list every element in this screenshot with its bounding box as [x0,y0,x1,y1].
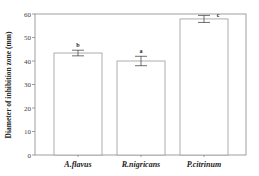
y-tick-label: 30 [24,81,32,89]
y-tick-label: 60 [24,11,32,19]
x-tick-label: P.citrinum [187,160,221,169]
x-tick-label: R.nigricans [121,160,160,169]
significance-letter: b [76,42,80,48]
bar-chart: 0102030405060 bac A.flavusR.nigricansP.c… [0,0,259,176]
significance-letter: c [217,12,220,18]
y-tick-label: 50 [24,34,32,42]
x-tick-label: A.flavus [63,160,91,169]
bar-a-flavus [54,53,102,155]
y-tick-label: 40 [24,58,32,66]
y-tick-label: 20 [24,105,32,113]
bar-r-nigricans [117,61,165,155]
y-tick-label: 0 [28,152,32,160]
y-axis-label: Diameter of inhibition zone (mm) [4,31,13,138]
y-tick-label: 10 [24,128,32,136]
significance-letter: a [140,48,143,54]
bar-p-citrinum [180,19,228,155]
